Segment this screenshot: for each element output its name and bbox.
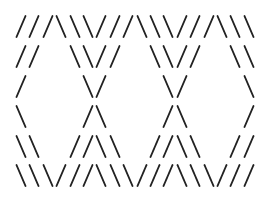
backslash-glyph (162, 45, 176, 69)
backslash-glyph (229, 45, 243, 69)
slash-glyph (55, 164, 69, 188)
slash-glyph (189, 15, 203, 39)
slash-glyph (69, 164, 83, 188)
backslash-glyph (149, 15, 163, 39)
slash-glyph (162, 135, 176, 159)
slash-glyph (149, 135, 163, 159)
slash-glyph (162, 164, 176, 188)
slash-glyph (189, 45, 203, 69)
backslash-glyph (28, 135, 42, 159)
slash-glyph (15, 45, 29, 69)
pattern-row-1: ///\\\///\\\///\\\ (0, 15, 271, 39)
ascii-diamond-pattern: ///\\\///\\\///\\\ // \\// \\// \\ / \/ … (0, 0, 271, 211)
pattern-row-4: \ /\ /\ / (0, 105, 271, 129)
slash-glyph (136, 164, 150, 188)
slash-glyph (82, 135, 96, 159)
slash-glyph (176, 75, 190, 99)
backslash-glyph (149, 45, 163, 69)
backslash-glyph (15, 135, 29, 159)
backslash-glyph (176, 164, 190, 188)
slash-glyph (122, 15, 136, 39)
row-text: / \/ \/ \ (0, 75, 1, 76)
slash-glyph (28, 45, 42, 69)
backslash-glyph (176, 105, 190, 129)
backslash-glyph (15, 105, 29, 129)
backslash-glyph (162, 75, 176, 99)
backslash-glyph (95, 135, 109, 159)
slash-glyph (95, 15, 109, 39)
slash-glyph (15, 15, 29, 39)
pattern-row-2: // \\// \\// \\ (0, 45, 271, 69)
row-text: // \\// \\// \\ (0, 45, 1, 46)
backslash-glyph (69, 15, 83, 39)
backslash-glyph (189, 164, 203, 188)
slash-glyph (243, 164, 257, 188)
slash-glyph (229, 164, 243, 188)
slash-glyph (176, 15, 190, 39)
backslash-glyph (243, 15, 257, 39)
pattern-row-3: / \/ \/ \ (0, 75, 271, 99)
slash-glyph (149, 164, 163, 188)
slash-glyph (109, 45, 123, 69)
slash-glyph (243, 135, 257, 159)
slash-glyph (82, 105, 96, 129)
slash-glyph (243, 105, 257, 129)
backslash-glyph (82, 45, 96, 69)
row-text: \\ //\\ //\\ // (0, 135, 1, 136)
backslash-glyph (216, 15, 230, 39)
backslash-glyph (176, 135, 190, 159)
backslash-glyph (55, 15, 69, 39)
backslash-glyph (162, 15, 176, 39)
backslash-glyph (189, 135, 203, 159)
backslash-glyph (203, 164, 217, 188)
row-text: \\\///\\\///\\\/// (0, 164, 1, 165)
slash-glyph (109, 15, 123, 39)
slash-glyph (28, 15, 42, 39)
backslash-glyph (243, 75, 257, 99)
slash-glyph (176, 45, 190, 69)
slash-glyph (95, 75, 109, 99)
backslash-glyph (42, 164, 56, 188)
backslash-glyph (82, 75, 96, 99)
backslash-glyph (82, 15, 96, 39)
slash-glyph (42, 15, 56, 39)
slash-glyph (203, 15, 217, 39)
backslash-glyph (229, 15, 243, 39)
slash-glyph (216, 164, 230, 188)
backslash-glyph (136, 15, 150, 39)
pattern-row-5: \\ //\\ //\\ // (0, 135, 271, 159)
slash-glyph (95, 45, 109, 69)
slash-glyph (69, 135, 83, 159)
slash-glyph (82, 164, 96, 188)
backslash-glyph (15, 164, 29, 188)
backslash-glyph (95, 105, 109, 129)
backslash-glyph (28, 164, 42, 188)
slash-glyph (15, 75, 29, 99)
slash-glyph (229, 135, 243, 159)
backslash-glyph (95, 164, 109, 188)
backslash-glyph (69, 45, 83, 69)
backslash-glyph (243, 45, 257, 69)
backslash-glyph (109, 135, 123, 159)
slash-glyph (162, 105, 176, 129)
pattern-row-6: \\\///\\\///\\\/// (0, 164, 271, 188)
backslash-glyph (122, 164, 136, 188)
backslash-glyph (109, 164, 123, 188)
row-text: ///\\\///\\\///\\\ (0, 15, 1, 16)
row-text: \ /\ /\ / (0, 105, 1, 106)
